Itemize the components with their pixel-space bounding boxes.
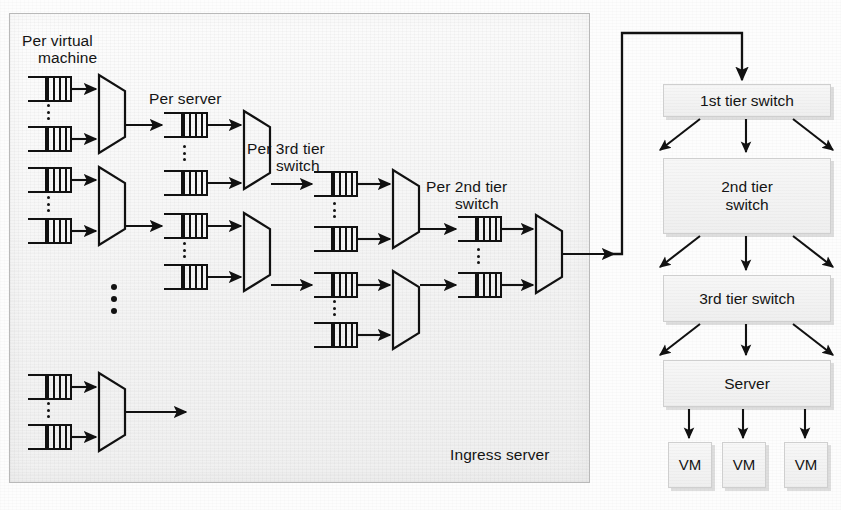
figure-canvas: Per virtual machine Per server Per 3rd t… [0,0,841,510]
connector-ingress-to-tier1 [612,33,742,254]
connector-layer [0,0,841,510]
